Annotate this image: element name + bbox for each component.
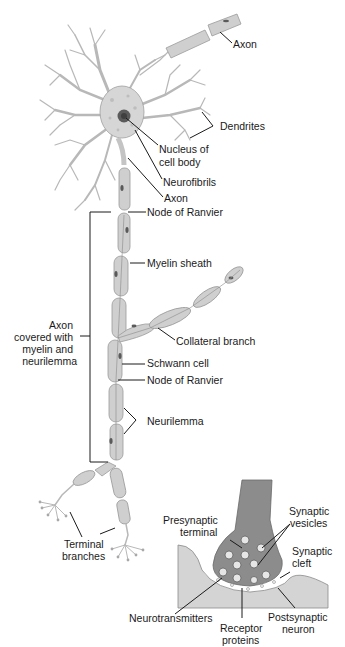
- neuron-illustration: Axon Dendrites Nucleus of cell body Neur…: [0, 0, 345, 647]
- label-neurotransmitters: Neurotransmitters: [129, 612, 212, 624]
- label-presynaptic-1: Presynaptic: [163, 514, 218, 526]
- neuron-diagram: Axon Dendrites Nucleus of cell body Neur…: [0, 0, 345, 647]
- label-node-ranvier-1: Node of Ranvier: [147, 206, 223, 218]
- label-terminal-1: Terminal: [64, 538, 104, 550]
- label-vesicles-2: vesicles: [290, 517, 327, 529]
- labels: Axon Dendrites Nucleus of cell body Neur…: [14, 38, 332, 646]
- label-nucleus-2: cell body: [159, 156, 201, 168]
- label-axon-hillock: Axon: [164, 192, 188, 204]
- label-collateral-branch: Collateral branch: [176, 335, 256, 347]
- axon-top-segment: [140, 14, 241, 75]
- label-axon-covered-4: neurilemma: [22, 355, 77, 367]
- label-postsynaptic-1: Postsynaptic: [268, 611, 328, 623]
- label-cleft-1: Synaptic: [292, 545, 332, 557]
- label-postsynaptic-2: neuron: [282, 623, 315, 635]
- label-myelin-sheath: Myelin sheath: [147, 257, 212, 269]
- label-axon-top: Axon: [233, 38, 257, 50]
- label-dendrites: Dendrites: [220, 120, 265, 132]
- label-axon-covered-3: myelin and: [22, 343, 73, 355]
- label-receptor-1: Receptor: [220, 622, 263, 634]
- label-neurofibrils: Neurofibrils: [163, 176, 216, 188]
- cell-body: [100, 86, 144, 138]
- label-receptor-2: proteins: [222, 634, 259, 646]
- label-presynaptic-2: terminal: [180, 526, 217, 538]
- label-nucleus-1: Nucleus of: [159, 143, 209, 155]
- label-terminal-2: branches: [62, 550, 105, 562]
- label-axon-covered-1: Axon: [49, 319, 73, 331]
- label-cleft-2: cleft: [292, 557, 311, 569]
- label-neurilemma: Neurilemma: [147, 415, 204, 427]
- label-axon-covered-2: covered with: [14, 331, 73, 343]
- collateral-branch: [118, 264, 246, 342]
- label-vesicles-1: Synaptic: [289, 505, 329, 517]
- main-axon: [108, 138, 130, 460]
- synapse-inset: [178, 480, 328, 608]
- label-node-ranvier-2: Node of Ranvier: [147, 374, 223, 386]
- label-schwann-cell: Schwann cell: [147, 357, 209, 369]
